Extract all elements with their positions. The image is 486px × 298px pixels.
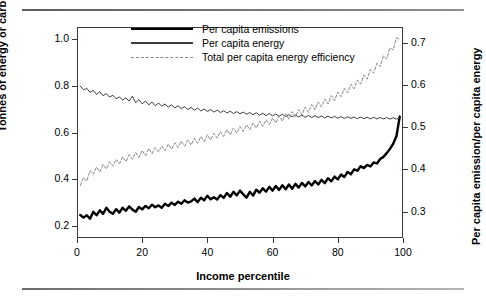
x-axis-title: Income percentile — [0, 270, 486, 282]
bottom-rule — [22, 288, 464, 290]
y-tick-right-2 — [403, 127, 408, 128]
chart-legend: Per capita emissions Per capita energy T… — [131, 22, 381, 64]
y-tick-right-3 — [403, 85, 408, 86]
x-tick-1 — [142, 238, 143, 243]
legend-swatch-emissions — [131, 23, 193, 35]
y-tick-left-0 — [72, 226, 77, 227]
legend-swatch-energy — [131, 37, 193, 49]
x-ticklabel-4: 80 — [318, 247, 358, 258]
y-ticklabel-left-1: 0.4 — [35, 173, 69, 184]
y-tick-left-3 — [72, 86, 77, 87]
legend-item-efficiency: Total per capita energy efficiency — [131, 50, 381, 64]
y-ticklabel-left-0: 0.2 — [35, 220, 69, 231]
y-axis-title-left: Tonnes of energy or carbon — [0, 0, 8, 132]
y-axis-title-right: Per capita emission/per capita energy — [470, 48, 482, 245]
y-ticklabel-left-4: 1.0 — [35, 33, 69, 44]
y-tick-right-0 — [403, 212, 408, 213]
y-tick-right-4 — [403, 43, 408, 44]
legend-swatch-efficiency — [131, 51, 193, 63]
x-tick-3 — [273, 238, 274, 243]
x-ticklabel-5: 100 — [383, 247, 423, 258]
x-tick-5 — [403, 238, 404, 243]
y-tick-left-2 — [72, 133, 77, 134]
x-ticklabel-3: 60 — [253, 247, 293, 258]
legend-label-emissions: Per capita emissions — [193, 23, 299, 35]
y-ticklabel-left-3: 0.8 — [35, 80, 69, 91]
series-line-0 — [80, 117, 399, 219]
legend-label-efficiency: Total per capita energy efficiency — [193, 51, 355, 63]
figure: Tonnes of energy or carbon Per capita em… — [0, 0, 486, 298]
y-ticklabel-right-2: 0.5 — [411, 121, 445, 132]
x-ticklabel-0: 0 — [57, 247, 97, 258]
top-rule — [22, 9, 464, 11]
x-tick-2 — [207, 238, 208, 243]
y-ticklabel-right-4: 0.7 — [411, 37, 445, 48]
y-ticklabel-right-3: 0.6 — [411, 79, 445, 90]
x-tick-0 — [77, 238, 78, 243]
y-ticklabel-right-0: 0.3 — [411, 206, 445, 217]
legend-label-energy: Per capita energy — [193, 37, 284, 49]
series-line-1 — [80, 86, 399, 119]
y-tick-left-1 — [72, 179, 77, 180]
y-tick-left-4 — [72, 39, 77, 40]
legend-item-emissions: Per capita emissions — [131, 22, 381, 36]
y-tick-right-1 — [403, 169, 408, 170]
x-tick-4 — [338, 238, 339, 243]
x-ticklabel-2: 40 — [187, 247, 227, 258]
x-ticklabel-1: 20 — [122, 247, 162, 258]
y-ticklabel-left-2: 0.6 — [35, 127, 69, 138]
y-ticklabel-right-1: 0.4 — [411, 163, 445, 174]
legend-item-energy: Per capita energy — [131, 36, 381, 50]
